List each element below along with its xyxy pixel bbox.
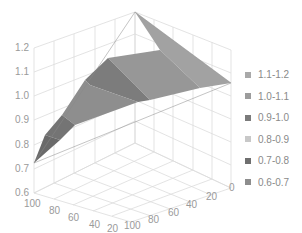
legend-swatch [245, 72, 251, 78]
svg-text:1.2: 1.2 [15, 42, 29, 53]
legend-item: 0.8-0.9 [245, 129, 289, 151]
svg-text:100: 100 [24, 198, 41, 209]
svg-text:100: 100 [124, 220, 141, 231]
svg-text:0.9: 0.9 [15, 114, 29, 125]
legend-item: 1.1-1.2 [245, 64, 289, 86]
svg-text:60: 60 [168, 207, 180, 218]
legend-swatch [245, 115, 251, 121]
svg-text:20: 20 [107, 223, 119, 233]
legend-label: 0.7-0.8 [258, 155, 289, 166]
svg-text:0.8: 0.8 [15, 139, 29, 150]
svg-text:0: 0 [229, 182, 235, 193]
legend-item: 0.6-0.7 [245, 172, 289, 194]
z-axis-labels: 1.2 1.1 1.0 0.9 0.8 0.7 0.6 [15, 42, 29, 198]
legend-label: 0.8-0.9 [258, 134, 289, 145]
legend-label: 1.0-1.1 [258, 91, 289, 102]
svg-text:20: 20 [206, 191, 218, 202]
svg-text:40: 40 [89, 219, 101, 230]
legend-item: 1.0-1.1 [245, 86, 289, 108]
svg-text:80: 80 [148, 214, 160, 225]
svg-text:0.6: 0.6 [15, 187, 29, 198]
svg-text:80: 80 [49, 205, 61, 216]
svg-text:60: 60 [68, 212, 80, 223]
svg-text:40: 40 [186, 199, 198, 210]
svg-text:1.1: 1.1 [15, 66, 29, 77]
legend-swatch [245, 136, 251, 142]
legend-label: 0.9-1.0 [258, 112, 289, 123]
svg-text:0.7: 0.7 [15, 163, 29, 174]
y-axis-labels: 100 80 60 40 20 100 [24, 198, 141, 233]
legend-item: 0.7-0.8 [245, 150, 289, 172]
legend: 1.1-1.2 1.0-1.1 0.9-1.0 0.8-0.9 0.7-0.8 … [245, 64, 289, 193]
legend-swatch [245, 179, 251, 185]
legend-item: 0.9-1.0 [245, 107, 289, 129]
legend-label: 0.6-0.7 [258, 177, 289, 188]
legend-swatch [245, 158, 251, 164]
svg-text:1.0: 1.0 [15, 90, 29, 101]
legend-label: 1.1-1.2 [258, 69, 289, 80]
legend-swatch [245, 93, 251, 99]
x-axis-labels: 80 60 40 20 0 [148, 182, 235, 225]
